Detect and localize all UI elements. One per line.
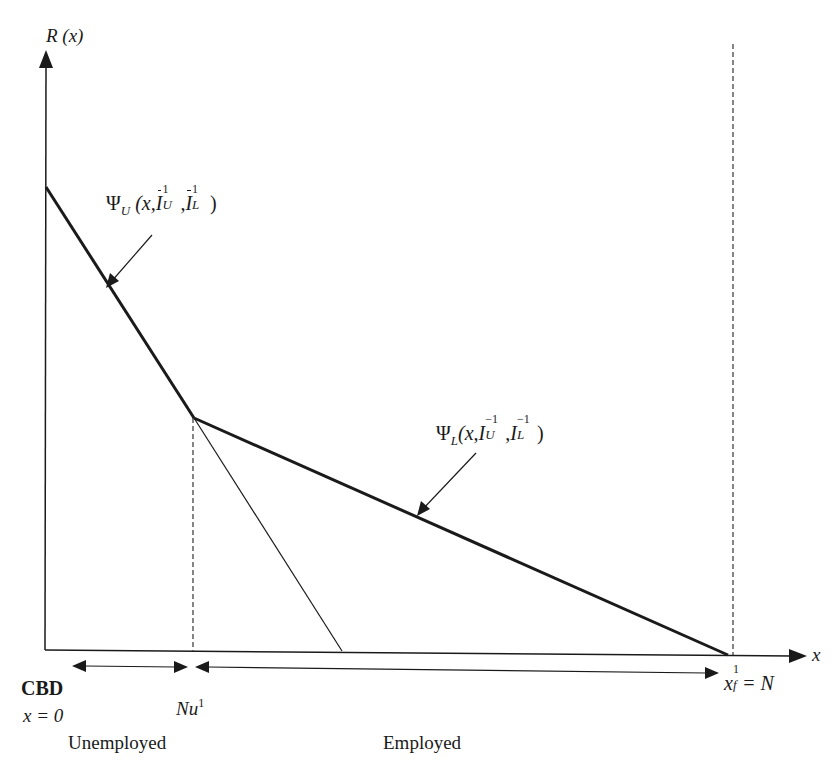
psi-l-curve [194,418,728,655]
psi-u-label: ΨU (x,I1U,I1L) [106,190,217,217]
unemployed-range-arrow [72,660,188,673]
y-axis-var: R [46,25,58,46]
y-axis-arrow-icon [39,50,53,68]
x-axis-arrow-icon [789,649,807,663]
psi-l-label: ΨL(x,I−1U,I−1L) [436,420,544,447]
x-axis-label: x [812,645,820,664]
employed-range-arrow [195,661,719,679]
psi-u-pointer-arrow [111,235,152,282]
y-axis-arg: (x) [62,25,83,46]
psi-l-pointer-arrow [422,453,476,510]
diagram-canvas [0,0,837,772]
nu-label: Nu1 [176,697,204,718]
unemployed-label: Unemployed [68,733,166,752]
cbd-label: CBD [21,678,63,698]
employed-label: Employed [383,733,461,752]
x-axis [45,649,807,663]
psi-u-extension-line [194,418,342,651]
xf-label: x1f= N [724,670,774,693]
y-axis-label: R (x) [46,26,83,45]
psi-u-curve [46,187,194,418]
cbd-equation: x = 0 [23,706,63,725]
y-axis [39,50,53,650]
